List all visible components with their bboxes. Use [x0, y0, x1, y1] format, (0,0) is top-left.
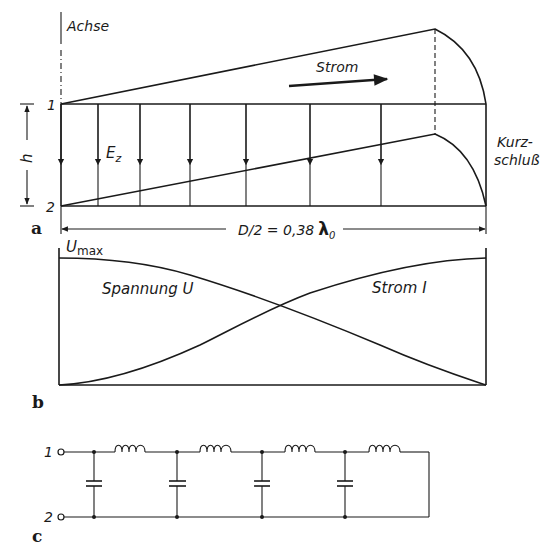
panel-b: Umax Spannung U Strom I b	[32, 238, 486, 412]
field-label: Ez	[106, 144, 121, 165]
conductor-2-label: 2	[46, 199, 55, 215]
inductor-2	[200, 445, 231, 452]
conductor-1-label: 1	[47, 97, 56, 113]
height-label: h	[18, 153, 36, 163]
current-curve-top	[61, 29, 486, 104]
current-direction-arrow	[289, 79, 387, 86]
inductor-3	[285, 445, 315, 452]
panel-a-label: a	[31, 218, 42, 238]
capacitor-2	[169, 450, 186, 519]
capacitor-4	[337, 450, 353, 519]
terminal-1-label: 1	[44, 444, 53, 460]
current-label: Strom	[316, 59, 358, 75]
length-label: D/2 = 0,38λ0	[238, 219, 335, 241]
figure-canvas: Achse Ez Strom	[0, 0, 551, 560]
voltage-curve	[59, 258, 486, 385]
current-curve-bottom	[61, 134, 486, 206]
current-curve	[59, 258, 486, 385]
terminal-2-label: 2	[44, 509, 53, 525]
short-circuit-label: Kurz- schluß	[494, 134, 540, 168]
current-label-b: Strom I	[372, 279, 427, 297]
voltage-label: Spannung U	[102, 280, 194, 298]
inductor-1	[115, 445, 145, 452]
panel-b-label: b	[32, 392, 44, 412]
panel-c-label: c	[32, 526, 42, 546]
terminal-2	[58, 514, 64, 520]
capacitor-3	[254, 450, 270, 519]
terminal-1	[58, 449, 64, 455]
axis-label: Achse	[66, 18, 109, 34]
inductor-4	[369, 445, 400, 452]
panel-c: 1 2	[32, 444, 429, 546]
panel-a: Achse Ez Strom	[18, 12, 540, 241]
umax-label: Umax	[66, 238, 103, 258]
capacitor-1	[86, 450, 102, 519]
